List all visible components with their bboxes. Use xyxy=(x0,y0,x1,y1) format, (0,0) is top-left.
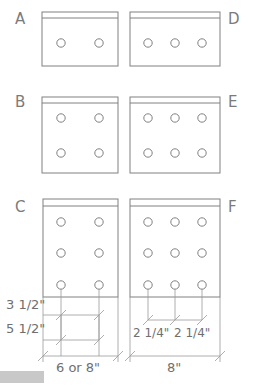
panel-f-body xyxy=(130,199,220,297)
panel-label-a: A xyxy=(15,12,26,27)
panel-a-hole xyxy=(95,39,103,47)
panel-f-hole xyxy=(144,281,152,289)
panel-label-f: F xyxy=(228,200,237,215)
panel-e xyxy=(130,97,220,173)
panel-d-hole xyxy=(198,39,206,47)
panel-e-hole xyxy=(171,114,179,122)
panel-c-hole xyxy=(57,218,65,226)
dimension-label-vertical-spacing-1: 3 1/2" xyxy=(6,298,45,311)
panel-c xyxy=(43,199,118,297)
panel-c-hole xyxy=(57,249,65,257)
panel-e-body xyxy=(130,97,220,173)
panel-label-b: B xyxy=(15,95,26,110)
panel-c-hole xyxy=(95,281,103,289)
panel-e-hole xyxy=(198,149,206,157)
bottom-left-gray-bar xyxy=(0,371,44,383)
panel-f xyxy=(130,199,220,297)
panel-c-hole xyxy=(95,218,103,226)
dimension-label-vertical-spacing-2: 5 1/2" xyxy=(6,322,45,335)
panel-c-hole xyxy=(57,281,65,289)
panel-a xyxy=(42,12,118,66)
panel-f-hole xyxy=(198,249,206,257)
panel-b xyxy=(42,97,118,173)
panel-b-hole xyxy=(95,114,103,122)
dimension-label-hole-spacing-1: 2 1/4" xyxy=(133,327,169,339)
panel-d-hole xyxy=(144,39,152,47)
panel-e-hole xyxy=(144,149,152,157)
left-dimension-group xyxy=(38,289,123,362)
panel-c-body xyxy=(43,199,118,297)
dimension-label-overall-width-right: 8" xyxy=(167,361,181,374)
panel-b-hole xyxy=(57,149,65,157)
panel-f-hole xyxy=(171,249,179,257)
dimension-label-overall-width-left: 6 or 8" xyxy=(56,361,100,374)
technical-drawing-page: A D B E C F 3 1/2" 5 1/2" 6 or 8" 2 1/4"… xyxy=(0,0,263,388)
panel-f-hole xyxy=(144,249,152,257)
panel-e-hole xyxy=(198,114,206,122)
panel-a-body xyxy=(42,12,118,66)
panel-d-hole xyxy=(171,39,179,47)
panel-d xyxy=(130,12,220,66)
panel-b-body xyxy=(42,97,118,173)
panel-label-c: C xyxy=(15,200,26,215)
panel-a-hole xyxy=(57,39,65,47)
panel-f-hole xyxy=(171,218,179,226)
panel-b-hole xyxy=(95,149,103,157)
panel-label-d: D xyxy=(228,12,240,27)
panel-e-hole xyxy=(171,149,179,157)
panel-b-hole xyxy=(57,114,65,122)
panel-label-e: E xyxy=(228,95,238,110)
panel-c-hole xyxy=(95,249,103,257)
panel-f-hole xyxy=(171,281,179,289)
panel-f-hole xyxy=(198,218,206,226)
panel-e-hole xyxy=(144,114,152,122)
dimension-label-hole-spacing-2: 2 1/4" xyxy=(174,327,210,339)
panel-f-hole xyxy=(144,218,152,226)
panel-f-hole xyxy=(198,281,206,289)
